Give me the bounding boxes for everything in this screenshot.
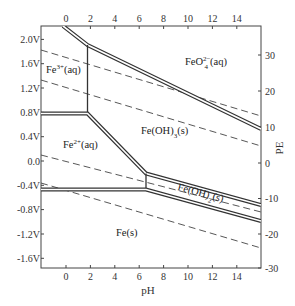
svg-text:14: 14 [232,13,242,24]
svg-text:8: 8 [161,13,166,24]
water-stability-lines [41,50,261,248]
left-y-tick-labels: 2.0V 1.6V 1.2V 0.8V 0.4V 0.0 -0.4V -0.8V… [17,34,41,264]
svg-text:1.2V: 1.2V [20,83,41,94]
label-feoh3-s: Fe(OH)3(s) [141,125,189,140]
pourbaix-chart: 0 2 4 6 8 10 12 14 0 2 4 6 8 10 12 14 pH… [0,0,295,306]
svg-text:4: 4 [112,271,117,282]
label-fe-s: Fe(s) [116,227,138,239]
svg-text:0: 0 [265,158,270,169]
svg-text:-1.6V: -1.6V [17,253,41,264]
svg-text:-30: -30 [265,263,278,274]
svg-text:0.4V: 0.4V [20,131,41,142]
svg-text:-0.4V: -0.4V [17,180,41,191]
label-feo4-aq: FeO2−4(aq) [185,55,227,71]
svg-text:10: 10 [183,271,193,282]
svg-text:2: 2 [88,13,93,24]
bottom-x-tick-labels: 0 2 4 6 8 10 12 14 [64,271,242,282]
svg-text:8: 8 [161,271,166,282]
svg-text:0: 0 [64,13,69,24]
svg-text:20: 20 [265,86,275,97]
svg-text:0: 0 [64,271,69,282]
svg-text:6: 6 [137,271,142,282]
label-fe3-aq: Fe3+(aq) [46,63,81,76]
svg-text:6: 6 [137,13,142,24]
svg-text:-1.2V: -1.2V [17,229,41,240]
svg-text:14: 14 [232,271,242,282]
x-axis-title: pH [141,284,155,296]
top-x-tick-labels: 0 2 4 6 8 10 12 14 [64,13,242,24]
svg-text:4: 4 [112,13,117,24]
svg-text:10: 10 [183,13,193,24]
svg-text:-20: -20 [265,229,278,240]
svg-text:0.8V: 0.8V [20,107,41,118]
right-y-tick-labels: 30 20 10 0 -10 -20 -30 [265,50,278,274]
svg-text:1.6V: 1.6V [20,58,41,69]
phase-boundaries-outer [41,26,261,221]
svg-text:-10: -10 [265,193,278,204]
svg-text:0.0: 0.0 [28,156,41,167]
dashed-line-upper-1 [41,50,261,116]
svg-text:30: 30 [265,50,275,61]
plot-frame [41,26,261,268]
label-fe2-aq: Fe2+(aq) [63,138,98,151]
svg-text:12: 12 [207,13,217,24]
right-axis-title: PE [273,141,285,154]
svg-text:12: 12 [207,271,217,282]
svg-text:10: 10 [265,122,275,133]
svg-text:-0.8V: -0.8V [17,204,41,215]
svg-text:2: 2 [88,271,93,282]
dashed-line-lower-1 [41,155,261,212]
svg-text:2.0V: 2.0V [20,34,41,45]
